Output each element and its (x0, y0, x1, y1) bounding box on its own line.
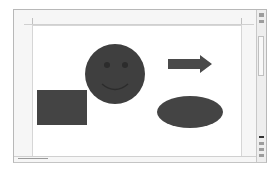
arrow-shape[interactable] (168, 55, 212, 73)
smiley-shape[interactable] (85, 44, 145, 104)
right-eye-icon (122, 62, 128, 68)
oval-shape[interactable] (157, 96, 223, 128)
left-eye-icon (104, 62, 110, 68)
rectangle-shape[interactable] (37, 90, 87, 125)
shapes-layer (0, 0, 276, 173)
